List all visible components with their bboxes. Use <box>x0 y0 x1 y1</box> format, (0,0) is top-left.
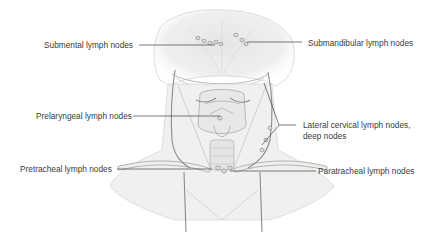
label-prelaryngeal: Prelaryngeal lymph nodes <box>36 111 132 121</box>
label-lateral-cervical-line2: deep nodes <box>303 131 346 141</box>
label-submandibular: Submandibular lymph nodes <box>308 38 413 48</box>
label-paratracheal: Paratracheal lymph nodes <box>318 166 414 176</box>
label-pretracheal: Pretracheal lymph nodes <box>20 164 112 174</box>
label-lateral-cervical-line1: Lateral cervical lymph nodes, <box>303 120 410 130</box>
head-jaw-outline <box>154 10 294 89</box>
neck-lymph-diagram: Submental lymph nodes Submandibular lymp… <box>0 0 436 245</box>
neck-shoulders-outline <box>110 84 334 220</box>
label-submental: Submental lymph nodes <box>44 40 133 50</box>
